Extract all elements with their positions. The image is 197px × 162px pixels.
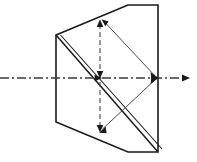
diagram-canvas <box>0 0 197 162</box>
optical-diagram-figure <box>0 0 197 162</box>
optical-axis-exit-arrow-icon <box>182 75 190 82</box>
